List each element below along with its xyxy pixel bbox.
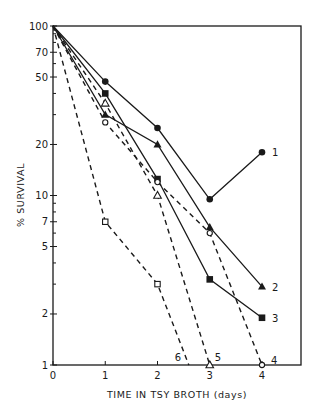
series-2-line [53,26,262,287]
x-axis: 01234 [50,361,265,381]
y-tick-label: 70 [35,47,48,58]
y-tick-label: 5 [42,241,48,252]
series-6-line [53,26,189,365]
series-6-marker [103,219,108,224]
series-4-marker [259,362,264,367]
series-3-marker [259,314,266,321]
series-6-marker [155,281,160,286]
y-tick-label: 7 [42,216,48,227]
x-tick-label: 4 [259,370,265,381]
series-5-line [53,26,210,365]
x-tick-label: 1 [102,370,108,381]
survival-chart: 125710205070100 01234 123456 TIME IN TSY… [0,0,321,417]
plot-frame [53,26,301,365]
series-5-marker [101,99,109,106]
series-labels: 123456 [175,147,279,366]
y-axis-title: % SURVIVAL [15,163,26,227]
series-3-label: 3 [272,313,278,324]
series-2-marker [101,110,109,117]
series-1-marker [102,78,109,85]
x-tick-label: 3 [207,370,213,381]
series-4-marker [207,231,212,236]
series-1-line [53,26,262,199]
series-3-marker [102,90,109,97]
series-2-label: 2 [272,282,278,293]
x-axis-title: TIME IN TSY BROTH (days) [106,389,247,400]
series-1-marker [206,196,213,203]
series-1-label: 1 [272,147,278,158]
series-4-marker [155,179,160,184]
series-3-marker [206,276,213,283]
series-2-marker [154,140,162,147]
series-6-label: 6 [175,352,181,363]
y-tick-label: 50 [35,72,48,83]
series-2-marker [206,223,214,230]
x-tick-label: 2 [154,370,160,381]
y-tick-label: 1 [42,360,48,371]
x-tick-label: 0 [50,370,56,381]
series-1-marker [259,149,266,156]
series-4-marker [103,120,108,125]
y-tick-label: 10 [35,190,48,201]
y-tick-label: 2 [42,308,48,319]
series-markers [101,78,266,368]
y-tick-label: 20 [35,139,48,150]
series-3-line [53,26,262,318]
series-1-marker [154,125,161,132]
y-tick-label: 100 [29,21,48,32]
series-5-label: 5 [215,352,221,363]
series-4-label: 4 [271,355,277,366]
series-5-marker [154,192,162,199]
